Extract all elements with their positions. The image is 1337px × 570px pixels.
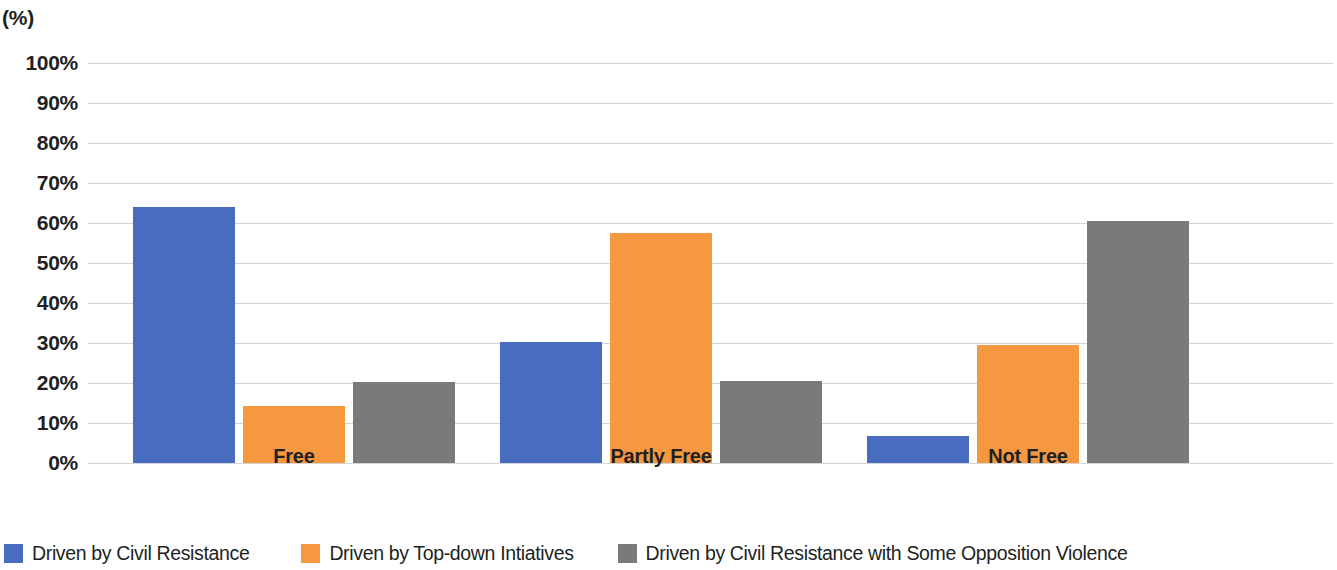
bar-groups [88, 40, 1333, 485]
x-axis-category-label: Not Free [867, 445, 1189, 468]
y-axis-tick-label: 50% [37, 251, 78, 275]
y-axis: 100%90%80%70%60%50%40%30%20%10%0% [0, 40, 88, 485]
y-axis-tick-label: 0% [48, 451, 78, 475]
y-axis-tick-label: 60% [37, 211, 78, 235]
bar-group [133, 48, 455, 463]
legend-item[interactable]: Driven by Civil Resistance with Some Opp… [618, 542, 1128, 565]
x-axis: FreePartly FreeNot Free [88, 445, 1333, 485]
bar-group [867, 48, 1189, 463]
bar[interactable] [133, 207, 235, 463]
legend-label: Driven by Top-down Intiatives [329, 542, 573, 565]
x-axis-category-label: Free [133, 445, 455, 468]
legend-swatch-icon [301, 544, 320, 563]
y-axis-tick-label: 10% [37, 411, 78, 435]
plot-area [88, 40, 1333, 485]
y-axis-tick-label: 70% [37, 171, 78, 195]
y-axis-tick-label: 90% [37, 91, 78, 115]
legend-item[interactable]: Driven by Civil Resistance [4, 542, 249, 565]
chart-legend: Driven by Civil ResistanceDriven by Top-… [4, 540, 1127, 566]
bar[interactable] [1087, 221, 1189, 463]
bar-chart: 100%90%80%70%60%50%40%30%20%10%0% [0, 40, 1337, 485]
legend-label: Driven by Civil Resistance [32, 542, 249, 565]
bar[interactable] [610, 233, 712, 463]
legend-swatch-icon [4, 544, 23, 563]
y-axis-tick-label: 20% [37, 371, 78, 395]
y-axis-tick-label: 80% [37, 131, 78, 155]
legend-label: Driven by Civil Resistance with Some Opp… [646, 542, 1128, 565]
legend-item[interactable]: Driven by Top-down Intiatives [301, 542, 573, 565]
y-axis-tick-label: 40% [37, 291, 78, 315]
legend-swatch-icon [618, 544, 637, 563]
bar-group [500, 48, 822, 463]
y-axis-unit-label: (%) [2, 6, 34, 30]
y-axis-tick-label: 100% [25, 51, 78, 75]
x-axis-category-label: Partly Free [500, 445, 822, 468]
y-axis-tick-label: 30% [37, 331, 78, 355]
